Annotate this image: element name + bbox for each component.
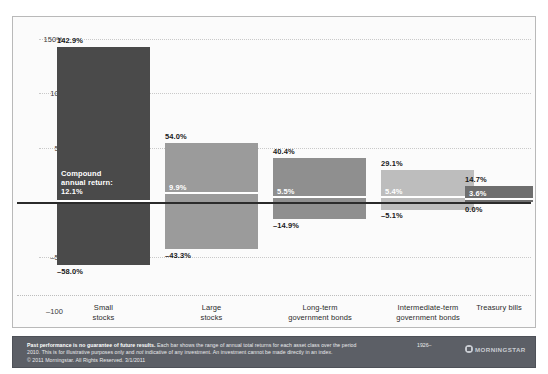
bar-high-label-treasury-bills: 14.7% bbox=[465, 175, 487, 184]
footer-disclaimer: Past performance is no guarantee of futu… bbox=[27, 342, 405, 364]
bar-compound-divider-large-stocks bbox=[165, 192, 258, 194]
bar-compound-divider-long-term-government-bonds bbox=[273, 196, 366, 198]
bar-negative-intermediate-term-government-bonds bbox=[381, 204, 474, 210]
footer-copyright: © 2011 Morningstar. All Rights Reserved.… bbox=[27, 357, 145, 363]
footer-period-label: 1926– bbox=[417, 342, 431, 348]
chart-screenshot: 150% 100 50 0 –50 –100 Compound annual r… bbox=[0, 0, 548, 374]
annotation-line-1: Compound bbox=[61, 169, 101, 178]
footer-disclaimer-rest-1: Each bar shows the range of annual total… bbox=[156, 342, 357, 348]
chart-plot-frame: 150% 100 50 0 –50 –100 Compound annual r… bbox=[12, 16, 536, 328]
bar-compound-label-long-term-government-bonds: 5.5% bbox=[277, 187, 295, 196]
compound-annual-return-annotation: Compound annual return: 12.1% bbox=[61, 169, 113, 196]
bar-compound-label-treasury-bills: 3.6% bbox=[469, 189, 487, 198]
annotation-line-2: annual return: bbox=[61, 178, 113, 187]
bar-low-label-large-stocks: –43.3% bbox=[165, 251, 191, 260]
bar-compound-divider-treasury-bills bbox=[465, 198, 533, 200]
footer-disclaimer-rest-2-pre: 2010. This is for illustrative purposes … bbox=[27, 349, 136, 355]
chart-footer: Past performance is no guarantee of futu… bbox=[12, 336, 536, 368]
annotation-line-3: 12.1% bbox=[61, 187, 83, 196]
bar-low-label-treasury-bills: 0.0% bbox=[465, 205, 483, 214]
footer-disclaimer-rest-2-post: indicative of any investment. An investm… bbox=[143, 349, 332, 355]
bar-group-small-stocks: Compound annual return: 12.1% 142.9% –58… bbox=[57, 17, 150, 327]
footer-disclaimer-bold: Past performance is no guarantee of futu… bbox=[27, 342, 156, 348]
chart-plot-area: 150% 100 50 0 –50 –100 Compound annual r… bbox=[13, 17, 535, 327]
bar-compound-label-large-stocks: 9.9% bbox=[169, 183, 187, 192]
bar-compound-divider-intermediate-term-government-bonds bbox=[381, 196, 474, 198]
bar-high-label-small-stocks: 142.9% bbox=[57, 36, 83, 45]
bar-compound-label-intermediate-term-government-bonds: 5.4% bbox=[385, 187, 403, 196]
bar-negative-small-stocks bbox=[57, 204, 150, 265]
bar-low-label-intermediate-term-government-bonds: –5.1% bbox=[381, 211, 403, 220]
xaxis-label-long-term-government-bonds: Long-term government bonds bbox=[265, 303, 375, 322]
xaxis-label-small-stocks: Small stocks bbox=[57, 303, 150, 322]
bar-group-long-term-government-bonds: 5.5% 40.4% –14.9% bbox=[273, 17, 366, 327]
bar-negative-long-term-government-bonds bbox=[273, 204, 366, 219]
bar-group-intermediate-term-government-bonds: 5.4% 29.1% –5.1% bbox=[381, 17, 474, 327]
bar-group-treasury-bills: 3.6% 14.7% 0.0% bbox=[465, 17, 533, 327]
bar-compound-divider-small-stocks bbox=[57, 200, 150, 202]
bar-low-label-long-term-government-bonds: –14.9% bbox=[273, 221, 299, 230]
morningstar-logo: MORNINGSTAR bbox=[465, 343, 531, 355]
bar-high-label-long-term-government-bonds: 40.4% bbox=[273, 147, 295, 156]
xaxis-label-large-stocks: Large stocks bbox=[165, 303, 258, 322]
bar-group-large-stocks: 9.9% 54.0% –43.3% bbox=[165, 17, 258, 327]
bar-high-label-large-stocks: 54.0% bbox=[165, 132, 187, 141]
bar-low-label-small-stocks: –58.0% bbox=[57, 267, 83, 276]
morningstar-wordmark: MORNINGSTAR bbox=[475, 346, 526, 353]
xaxis-label-treasury-bills: Treasury bills bbox=[465, 303, 533, 313]
morningstar-mark-icon bbox=[465, 345, 473, 353]
bar-negative-large-stocks bbox=[165, 204, 258, 249]
bar-high-label-intermediate-term-government-bonds: 29.1% bbox=[381, 159, 403, 168]
